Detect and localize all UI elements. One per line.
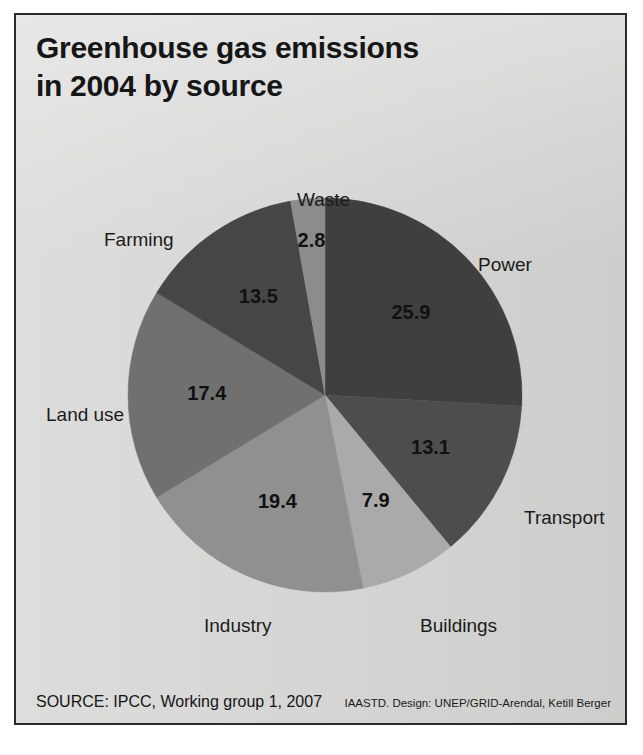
pie-value-transport: 13.1 xyxy=(411,436,450,458)
pie-chart: 25.913.17.919.417.413.52.8 PowerTranspor… xyxy=(16,15,625,723)
footer: SOURCE: IPCC, Working group 1, 2007 IAAS… xyxy=(16,681,625,711)
pie-value-power: 25.9 xyxy=(391,301,430,323)
pie-value-waste: 2.8 xyxy=(298,229,326,251)
pie-value-buildings: 7.9 xyxy=(362,489,390,511)
pie-label-buildings: Buildings xyxy=(420,615,497,637)
pie-chart-svg: 25.913.17.919.417.413.52.8 xyxy=(16,15,625,723)
pie-label-farming: Farming xyxy=(104,229,174,251)
poster-canvas: Greenhouse gas emissions in 2004 by sour… xyxy=(0,0,643,755)
source-text: SOURCE: IPCC, Working group 1, 2007 xyxy=(36,693,322,711)
pie-value-land-use: 17.4 xyxy=(187,382,227,404)
pie-label-industry: Industry xyxy=(204,615,272,637)
pie-value-farming: 13.5 xyxy=(239,285,278,307)
pie-label-power: Power xyxy=(478,254,532,276)
pie-value-industry: 19.4 xyxy=(258,490,298,512)
chart-panel: Greenhouse gas emissions in 2004 by sour… xyxy=(14,13,627,725)
pie-label-transport: Transport xyxy=(524,507,605,529)
pie-label-waste: Waste xyxy=(297,189,350,211)
credit-text: IAASTD. Design: UNEP/GRID-Arendal, Ketil… xyxy=(344,697,611,709)
pie-label-land-use: Land use xyxy=(46,404,124,426)
